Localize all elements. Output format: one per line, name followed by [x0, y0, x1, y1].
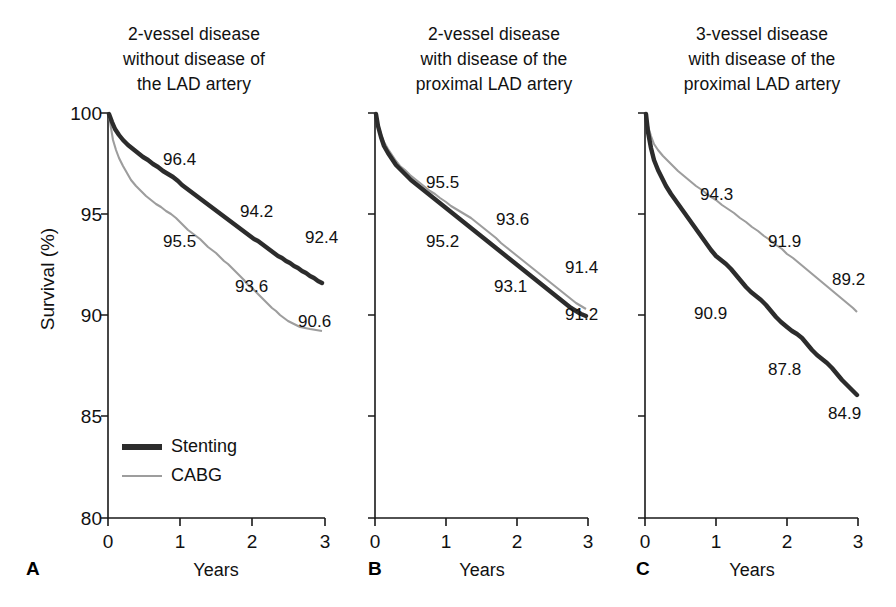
panel-a-letter: A	[26, 558, 40, 580]
panel-c-letter: C	[636, 558, 650, 580]
panel-c: 3-vessel disease with disease of the pro…	[628, 0, 896, 607]
panel-a-label-stenting-1: 96.4	[163, 150, 196, 170]
y-tick-100: 100	[2, 103, 102, 125]
panel-b: 2-vessel disease with disease of the pro…	[360, 0, 628, 607]
y-tick-90: 90	[2, 305, 102, 327]
panel-c-plot	[628, 0, 896, 607]
panel-b-plot	[360, 0, 628, 607]
panel-b-x-tick-1: 1	[431, 531, 461, 553]
panel-a-curve-cabg	[109, 115, 322, 331]
panel-c-label-cabg-1: 94.3	[700, 185, 733, 205]
panel-c-label-stenting-1: 90.9	[694, 304, 727, 324]
panel-a-x-tick-3: 3	[310, 531, 340, 553]
legend-label-stenting: Stenting	[171, 436, 237, 457]
panel-c-x-tick-0: 0	[630, 531, 660, 553]
panel-c-y-ticks	[638, 113, 645, 518]
legend: Stenting CABG	[122, 432, 237, 490]
panel-a-curve-stenting	[109, 114, 322, 283]
panel-a-label-cabg-1: 95.5	[163, 232, 196, 252]
panel-c-x-ticks	[645, 518, 858, 526]
panel-c-label-stenting-3: 84.9	[828, 404, 861, 424]
panel-b-label-cabg-1: 95.5	[426, 173, 459, 193]
legend-label-cabg: CABG	[171, 465, 222, 486]
panel-b-x-tick-3: 3	[573, 531, 603, 553]
panel-b-x-tick-0: 0	[360, 531, 390, 553]
panel-c-x-tick-3: 3	[843, 531, 873, 553]
panel-b-y-ticks	[368, 113, 375, 518]
panel-b-letter: B	[368, 558, 382, 580]
panel-a-x-tick-2: 2	[237, 531, 267, 553]
panel-b-label-stenting-1: 95.2	[426, 232, 459, 252]
panel-b-x-ticks	[375, 518, 588, 526]
panel-b-x-axis-title: Years	[412, 560, 552, 581]
panel-a-y-ticks	[101, 113, 108, 518]
panel-a-x-tick-0: 0	[93, 531, 123, 553]
panel-b-curve-cabg	[376, 114, 586, 309]
panel-a-x-tick-1: 1	[165, 531, 195, 553]
panel-c-curve-cabg	[646, 114, 857, 312]
legend-item-stenting: Stenting	[122, 432, 237, 461]
panel-b-label-cabg-3: 91.4	[565, 258, 598, 278]
panel-a-x-ticks	[108, 518, 325, 526]
panel-c-label-cabg-3: 89.2	[832, 270, 865, 290]
y-tick-95: 95	[2, 204, 102, 226]
panel-a-label-cabg-2: 93.6	[235, 277, 268, 297]
panel-a-label-cabg-3: 90.6	[298, 312, 331, 332]
panel-c-x-tick-2: 2	[772, 531, 802, 553]
panel-c-curve-stenting	[646, 114, 857, 395]
legend-swatch-cabg-icon	[122, 475, 162, 477]
panel-a: 2-vessel disease without disease of the …	[0, 0, 360, 607]
y-tick-80: 80	[2, 508, 102, 530]
panel-b-x-tick-2: 2	[502, 531, 532, 553]
panel-c-label-stenting-2: 87.8	[768, 360, 801, 380]
panel-b-label-stenting-3: 91.2	[565, 305, 598, 325]
panel-b-label-cabg-2: 93.6	[496, 210, 529, 230]
panel-c-x-axis-title: Years	[682, 560, 822, 581]
legend-item-cabg: CABG	[122, 461, 237, 490]
panel-b-label-stenting-2: 93.1	[494, 277, 527, 297]
panel-c-x-tick-1: 1	[701, 531, 731, 553]
panel-a-x-axis-title: Years	[146, 560, 286, 581]
panel-c-label-cabg-2: 91.9	[768, 232, 801, 252]
panel-a-label-stenting-3: 92.4	[305, 228, 338, 248]
panel-a-label-stenting-2: 94.2	[240, 202, 273, 222]
survival-curves-figure: 2-vessel disease without disease of the …	[0, 0, 896, 607]
y-tick-85: 85	[2, 406, 102, 428]
panel-c-axis-spine	[645, 113, 858, 518]
legend-swatch-stenting-icon	[122, 444, 162, 450]
